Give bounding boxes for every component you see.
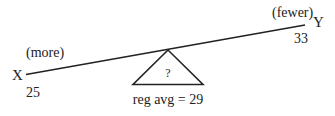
left-value: 25 [26,85,40,100]
right-annotation: (fewer) [272,5,314,21]
right-value: 33 [294,31,308,46]
right-label: Y [313,14,324,30]
left-label: X [12,67,23,83]
fulcrum-symbol: ? [165,66,170,80]
left-annotation: (more) [26,45,64,61]
seesaw-diagram: ? reg avg = 29 (more) X 25 (fewer) Y 33 [0,0,335,116]
fulcrum-caption: reg avg = 29 [133,92,204,107]
